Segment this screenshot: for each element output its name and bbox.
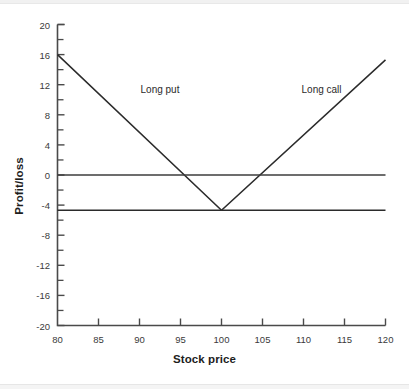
x-axis-tick-label: 120 xyxy=(378,334,394,345)
y-axis-tick-label: 8 xyxy=(20,109,50,120)
x-axis-tick-label: 90 xyxy=(134,334,145,345)
series-annotation-long-put: Long put xyxy=(141,84,180,95)
x-axis-tick-label: 85 xyxy=(93,334,104,345)
x-axis-tick-label: 110 xyxy=(296,334,311,345)
y-axis-tick-label: -20 xyxy=(20,320,50,331)
plot-area xyxy=(0,0,409,389)
x-axis-title: Stock price xyxy=(0,353,409,365)
series-annotation-long-call: Long call xyxy=(302,84,342,95)
y-axis-tick-label: 0 xyxy=(20,170,50,181)
y-axis-tick-label: -8 xyxy=(20,230,50,241)
y-axis-tick-label: 4 xyxy=(20,139,50,150)
x-axis-tick-label: 80 xyxy=(52,334,63,345)
y-axis-tick-label: -12 xyxy=(20,260,50,271)
x-axis-tick-label: 100 xyxy=(214,334,230,345)
x-axis-tick-label: 115 xyxy=(337,334,352,345)
x-axis-tick-label: 105 xyxy=(255,334,271,345)
series-line-long-put xyxy=(58,55,386,211)
y-axis-tick-label: 16 xyxy=(20,49,50,60)
x-axis-tick-label: 95 xyxy=(175,334,186,345)
y-axis-tick-label: 12 xyxy=(20,79,50,90)
y-axis-tick-label: -4 xyxy=(20,200,50,211)
chart-figure: Profit/loss Stock price 201612840-4-8-12… xyxy=(0,0,409,389)
y-axis-tick-label: 20 xyxy=(20,19,50,30)
series-line-long-call xyxy=(58,60,386,211)
y-axis-tick-label: -16 xyxy=(20,290,50,301)
